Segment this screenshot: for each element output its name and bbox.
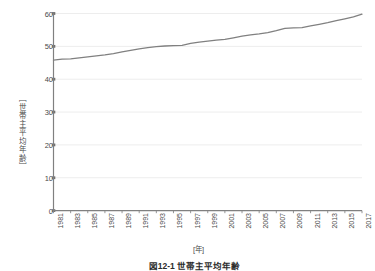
x-tick-label: 2005 <box>262 213 269 229</box>
figure-caption: 図12-1 世帯主平均年齢 <box>0 259 375 271</box>
x-tick-label: 2015 <box>348 213 355 229</box>
x-tick-label: 2001 <box>228 213 235 229</box>
x-tick-label: 2009 <box>296 213 303 229</box>
x-tick-label: 2011 <box>314 213 321 228</box>
x-tick-label: 2017 <box>365 213 372 229</box>
x-tick-label: 1983 <box>74 213 81 229</box>
x-tick-label: 2007 <box>279 213 286 229</box>
x-tick-label: 1997 <box>194 213 201 229</box>
x-tick-label: 1999 <box>211 213 218 229</box>
x-tick-label: 1993 <box>159 213 166 229</box>
x-tick-label: 1995 <box>176 213 183 229</box>
x-tick-label: 2013 <box>331 213 338 229</box>
x-tick-label: 1985 <box>91 213 98 229</box>
x-axis-label: [年] <box>0 243 375 254</box>
x-tick-label: 1989 <box>125 213 132 229</box>
x-tick-label: 2003 <box>245 213 252 229</box>
x-tick-label: 1981 <box>57 213 64 229</box>
x-tick-label: 1991 <box>142 213 149 229</box>
x-tick-label: 1987 <box>108 213 115 229</box>
